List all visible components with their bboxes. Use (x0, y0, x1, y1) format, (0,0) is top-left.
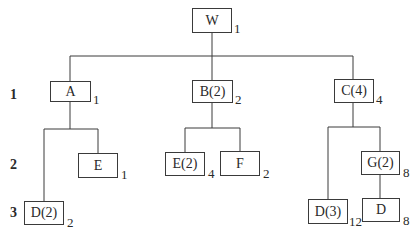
node-a-qty: 1 (93, 93, 100, 106)
node-e2: E(2) (165, 152, 205, 176)
node-e: E (78, 153, 118, 178)
node-d-qty: 8 (403, 214, 410, 227)
level-label-1: 1 (10, 88, 17, 102)
node-w: W (192, 8, 232, 33)
node-e-qty: 1 (121, 168, 128, 181)
node-d2: D(2) (24, 201, 64, 225)
node-d3-qty: 12 (349, 215, 362, 228)
node-b: B(2) (192, 80, 233, 103)
node-d: D (362, 198, 400, 222)
level-label-3: 3 (10, 206, 17, 220)
node-e2-qty: 4 (208, 167, 215, 180)
node-g-qty: 8 (403, 166, 410, 179)
node-c: C(4) (334, 79, 374, 103)
node-c-qty: 4 (376, 93, 383, 106)
node-d3: D(3) (308, 199, 348, 224)
node-d2-qty: 2 (67, 216, 74, 229)
node-f-qty: 2 (263, 167, 270, 180)
node-f: F (220, 151, 260, 176)
node-g: G(2) (361, 151, 400, 175)
node-a: A (50, 81, 91, 102)
level-label-2: 2 (10, 158, 17, 172)
node-b-qty: 2 (235, 93, 242, 106)
node-w-qty: 1 (234, 22, 241, 35)
